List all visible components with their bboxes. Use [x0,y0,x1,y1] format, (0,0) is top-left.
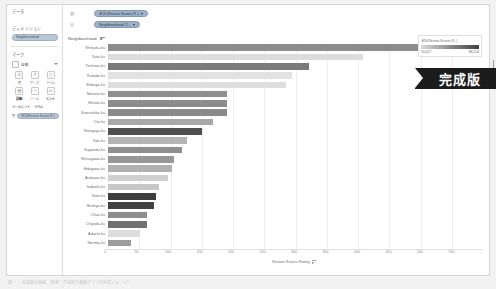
x-axis-tick-label: 400 [354,250,360,254]
color-legend-max: 88,224 [469,50,479,54]
bar-track [108,229,483,238]
bar-row-label: Nerima-ku [68,241,108,245]
x-axis-tick-label: 500 [417,250,423,254]
marks-shelf-label[interactable]: ◻ ラベル [43,71,58,85]
bar[interactable] [108,82,286,89]
sort-descending-icon[interactable] [100,37,105,40]
bar-row[interactable]: Adachi-ku [68,229,483,238]
bar-row[interactable]: Setagaya-ku [68,127,483,136]
bar[interactable] [108,212,147,219]
bar-row[interactable]: Suginami-ku [68,145,483,154]
columns-shelf-pill[interactable]: 合計(Review Scores R..) [94,10,148,17]
app-window: データ ディメンション Neighbourhood マーク 自動 ⠿ [6,4,490,276]
bar-row[interactable]: Edogawa-ku [68,164,483,173]
size-icon: T [31,71,39,79]
bar[interactable] [108,137,187,144]
bar-row-label: Minato-ku [68,101,108,105]
bar-row[interactable]: Bunkyo-ku [68,201,483,210]
bar[interactable] [108,109,227,116]
row-header-title: Neighbourhood [68,36,97,41]
columns-shelf[interactable]: 列 合計(Review Scores R..) [70,9,483,18]
chevron-down-icon [141,13,143,15]
bar[interactable] [108,221,147,228]
bar[interactable] [108,175,168,182]
bar[interactable] [108,202,154,209]
marks-shelf-size[interactable]: T サイズ [28,71,43,85]
bar[interactable] [108,193,156,200]
bar-row[interactable]: Katsushika-ku [68,108,483,117]
bar[interactable] [108,156,174,163]
marks-color-pill[interactable]: 合計(Review Scores R..) [17,113,59,119]
tooltip-icon: ◔ [31,87,39,95]
bar-row[interactable]: Nerima-ku [68,238,483,247]
bar-track [108,117,483,126]
x-axis: 050100150200250300350400450500550 [105,249,483,261]
bar-row[interactable]: Chiyoda-ku [68,220,483,229]
bar-track [108,210,483,219]
bar[interactable] [108,72,292,79]
bar-row-label: Taito-ku [68,55,108,59]
x-axis-tick-label: 350 [323,250,329,254]
marks-shelf-label-label: ラベル [46,80,55,85]
color-legend-gradient [421,45,479,49]
rows-shelf-pill[interactable]: Neighbourhood Cl... [94,21,140,28]
bar[interactable] [108,128,202,135]
bar[interactable] [108,147,182,154]
bar[interactable] [108,54,363,61]
bar-row[interactable]: Chuo-ku [68,210,483,219]
mark-type-selector[interactable]: 自動 [12,61,58,68]
ribbon-label: 完成版 [431,69,481,88]
bar-row[interactable]: Nakano-ku [68,89,483,98]
marks-color-pill-row: 色 合計(Review Scores R..) [12,113,58,119]
bar-row[interactable]: Minato-ku [68,99,483,108]
bar-row-label: Setagaya-ku [68,129,108,133]
bar-track [108,155,483,164]
bar-row[interactable]: Shinagawa-ku [68,155,483,164]
bar-row[interactable]: Koto-ku [68,192,483,201]
marks-shelf-hint[interactable]: ▭ ヒント [43,87,58,101]
data-pane-title: データ [12,9,58,15]
ribbon-body: 完成版 [415,68,496,89]
bar[interactable] [108,230,140,237]
bar-row[interactable]: Ota-ku [68,117,483,126]
bar-row-label: Ota-ku [68,120,108,124]
bar[interactable] [108,100,227,107]
bar-track [108,182,483,191]
bar-row[interactable]: Itabashi-ku [68,182,483,191]
tableau-worksheet-screen: データ ディメンション Neighbourhood マーク 自動 ⠿ [0,0,496,289]
bar[interactable] [108,91,227,98]
bar[interactable] [108,165,172,172]
bar-track [108,192,483,201]
bar[interactable] [108,184,159,191]
dimension-pill-label: Neighbourhood [16,35,39,39]
marks-shelf-detail[interactable]: ▤ 詳細 [12,87,27,101]
x-axis-tick-label: 150 [197,250,203,254]
label-icon: ◻ [47,71,55,79]
marks-sub-captions: ツールヒント ラベル [12,104,58,109]
marks-card-title: マーク [7,52,62,58]
marks-shelf-tooltip[interactable]: ◔ ツール [28,87,43,101]
bar[interactable] [108,240,131,247]
color-legend[interactable]: 合計(Review Scores R..) 50,027 88,224 [418,35,482,57]
marks-shelf-color-label: 色 [18,80,21,85]
chevron-down-icon [54,63,58,65]
bar[interactable] [108,44,462,51]
bar[interactable] [108,119,213,126]
data-pane: データ [7,5,62,15]
completed-version-ribbon: 完成版 [415,66,496,90]
rows-shelf-label: 行 [70,22,94,28]
bar-row[interactable]: Arakawa-ku [68,173,483,182]
bar-row-label: Edogawa-ku [68,167,108,171]
bar-track [108,89,483,98]
bar-row[interactable]: Kita-ku [68,136,483,145]
bar-row-label: Shinagawa-ku [68,157,108,161]
bar[interactable] [108,63,309,70]
bar-track [108,136,483,145]
rows-shelf-pill-label: Neighbourhood Cl... [99,23,131,27]
x-axis-tick-label: 550 [449,250,455,254]
dimension-pill-neighbourhood[interactable]: Neighbourhood [12,34,58,41]
bar-track [108,127,483,136]
rows-shelf[interactable]: 行 Neighbourhood Cl... [70,20,483,29]
bar-row-label: Sumida-ku [68,74,108,78]
marks-shelf-color[interactable]: ⠿ 色 [12,71,27,85]
